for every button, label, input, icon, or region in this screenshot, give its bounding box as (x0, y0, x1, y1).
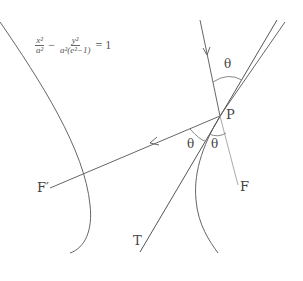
minus-sign: − (48, 38, 55, 53)
angle-arc-right (209, 133, 226, 136)
fraction-y: y² a²(e²−1) (59, 36, 91, 56)
denominator-a: a² (35, 46, 44, 55)
label-theta-top: θ (224, 58, 231, 70)
equals-one: = 1 (95, 38, 111, 53)
tangent-line (140, 20, 277, 252)
label-f: F (240, 180, 249, 193)
label-theta-left: θ (187, 138, 194, 150)
fraction-x: x² a² (35, 36, 44, 56)
denominator-e: a²(e²−1) (59, 46, 91, 55)
left-hyperbola-branch (0, 22, 91, 253)
arrow-left-icon (150, 137, 159, 145)
label-theta-right: θ (211, 138, 218, 150)
focal-line-f (220, 116, 238, 185)
incident-ray (200, 20, 220, 116)
label-t: T (133, 234, 142, 247)
angle-arc-top (213, 76, 242, 82)
label-f-prime: F′ (37, 181, 49, 194)
right-hyperbola-branch (196, 22, 285, 253)
label-p: P (226, 108, 235, 121)
hyperbola-equation: x² a² − y² a²(e²−1) = 1 (35, 36, 111, 56)
